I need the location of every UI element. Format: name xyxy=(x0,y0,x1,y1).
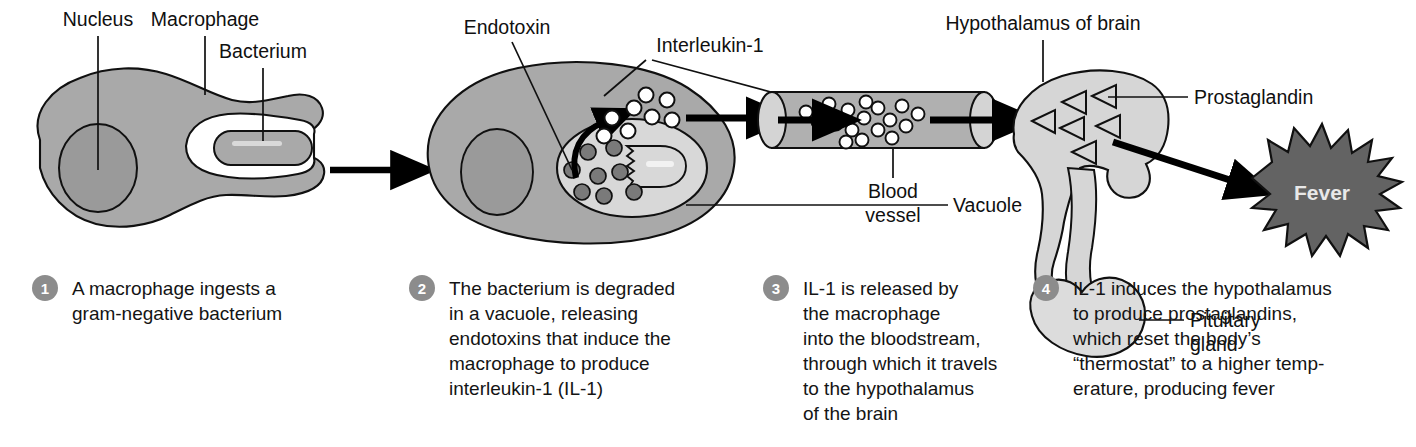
step-2-line-5: interleukin-1 (IL-1) xyxy=(449,378,603,399)
label-prostaglandin: Prostaglandin xyxy=(1194,86,1313,108)
step-4-line-2: to produce prostaglandins, xyxy=(1073,303,1297,324)
label-macrophage: Macrophage xyxy=(151,8,259,30)
label-blood-vessel-line2: vessel xyxy=(865,204,920,226)
fever-starburst-group: Fever xyxy=(1252,124,1402,256)
step-3-line-3: into the bloodstream, xyxy=(803,328,980,349)
step-3-line-5: to the hypothalamus xyxy=(803,378,974,399)
step-3-line-1: IL-1 is released by xyxy=(803,278,959,299)
step-2-line-2: in a vacuole, releasing xyxy=(449,303,638,324)
diagram-svg: Nucleus Macrophage Bacterium xyxy=(0,0,1416,447)
degraded-bacterium-highlight xyxy=(646,161,674,167)
step-4-line-4: “thermostat” to a higher temp- xyxy=(1073,353,1324,374)
step-3-line-2: the macrophage xyxy=(803,303,940,324)
step-number-2: 2 xyxy=(418,280,426,297)
nucleus-shape-2 xyxy=(461,129,533,215)
step-2-line-1: The bacterium is degraded xyxy=(449,278,675,299)
panel-1-macrophage-group: Nucleus Macrophage Bacterium xyxy=(38,8,325,227)
step-4-line-5: erature, producing fever xyxy=(1073,378,1275,399)
step-2-line-3: endotoxins that induce the xyxy=(449,328,671,349)
step-1-line-2: gram-negative bacterium xyxy=(72,303,282,324)
step-3-line-6: of the brain xyxy=(803,403,898,424)
step-4-line-1: IL-1 induces the hypothalamus xyxy=(1073,278,1332,299)
step-number-4: 4 xyxy=(1042,280,1051,297)
label-bacterium: Bacterium xyxy=(219,40,307,62)
step-3-line-4: through which it travels xyxy=(803,353,997,374)
label-fever: Fever xyxy=(1294,181,1350,204)
step-number-3: 3 xyxy=(772,280,780,297)
label-nucleus: Nucleus xyxy=(63,8,134,30)
step-3-caption: 3 IL-1 is released by the macrophage int… xyxy=(763,275,997,424)
step-number-1: 1 xyxy=(41,280,49,297)
figure-canvas: Nucleus Macrophage Bacterium xyxy=(0,0,1416,447)
label-blood-vessel-line1: Blood xyxy=(868,180,918,202)
label-endotoxin: Endotoxin xyxy=(464,16,551,38)
step-2-line-4: macrophage to produce xyxy=(449,353,650,374)
label-vacuole: Vacuole xyxy=(953,194,1022,216)
step-4-caption: 4 IL-1 induces the hypothalamus to produ… xyxy=(1033,275,1332,399)
step-1-line-1: A macrophage ingests a xyxy=(72,278,276,299)
bacterium-highlight xyxy=(232,141,282,146)
step-1-caption: 1 A macrophage ingests a gram-negative b… xyxy=(32,275,282,324)
step-4-line-3: which reset the body’s xyxy=(1072,328,1261,349)
label-hypothalamus: Hypothalamus of brain xyxy=(945,12,1140,34)
label-interleukin-1: Interleukin-1 xyxy=(656,34,763,56)
step-2-caption: 2 The bacterium is degraded in a vacuole… xyxy=(409,275,675,399)
